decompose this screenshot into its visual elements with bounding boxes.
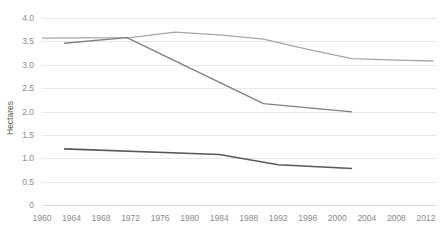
chart-container: 00.51.01.52.02.53.03.54.0 19601964196819… xyxy=(0,0,447,230)
x-axis-tick-label: 1976 xyxy=(151,213,170,223)
x-axis-tick-label: 1992 xyxy=(269,213,288,223)
y-axis-tick-label: 2.5 xyxy=(22,83,34,93)
y-axis-tick-label: 4.0 xyxy=(22,13,34,23)
x-axis-tick-label: 2012 xyxy=(416,213,435,223)
x-axis-tick-label: 2008 xyxy=(387,213,406,223)
x-axis-tick-labels: 1960196419681972197619801984198819921996… xyxy=(33,213,436,223)
line-chart: 00.51.01.52.02.53.03.54.0 19601964196819… xyxy=(0,0,447,230)
gridlines xyxy=(42,19,437,206)
data-series xyxy=(42,32,433,169)
x-axis-tick-label: 1996 xyxy=(298,213,317,223)
y-axis-tick-labels: 00.51.01.52.02.53.03.54.0 xyxy=(22,13,34,210)
series-line-middle-series xyxy=(64,38,352,112)
y-axis-tick-label: 3.5 xyxy=(22,36,34,46)
x-axis-tick-label: 1960 xyxy=(33,213,52,223)
x-axis-tick-label: 1964 xyxy=(62,213,81,223)
y-axis-tick-label: 1.0 xyxy=(22,153,34,163)
series-line-upper-series xyxy=(42,32,433,61)
x-axis-tick-label: 1980 xyxy=(180,213,199,223)
x-axis-tick-label: 2004 xyxy=(357,213,376,223)
y-axis-tick-label: 0.5 xyxy=(22,177,34,187)
x-axis-tick-label: 2000 xyxy=(328,213,347,223)
y-axis-title: Hectares xyxy=(5,101,15,135)
x-axis-tick-label: 1972 xyxy=(121,213,140,223)
x-axis-tick-label: 1968 xyxy=(92,213,111,223)
x-axis-tick-label: 1988 xyxy=(239,213,258,223)
x-axis-tick-label: 1984 xyxy=(210,213,229,223)
y-axis-tick-label: 1.5 xyxy=(22,130,34,140)
y-axis-tick-label: 3.0 xyxy=(22,60,34,70)
y-axis-tick-label: 2.0 xyxy=(22,107,34,117)
y-axis-tick-label: 0 xyxy=(29,200,34,210)
